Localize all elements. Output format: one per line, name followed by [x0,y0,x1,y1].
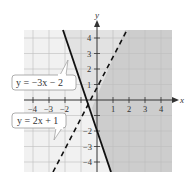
x-tick-label: −3 [44,104,53,114]
x-tick-label: −4 [28,104,38,114]
x-tick-label: 3 [143,104,147,114]
y-tick-label: −4 [83,157,93,167]
y-axis-label: y [94,10,99,20]
y-tick-label: 1 [87,80,91,90]
y-tick-label: 2 [87,64,91,74]
x-tick-label: 2 [127,104,131,114]
y-tick-label: −2 [83,126,92,136]
y-tick-label: −3 [83,142,92,152]
y-axis-arrow-icon [94,20,100,27]
eq1-label: y = −3x − 2 [16,77,63,88]
x-axis-label: x [179,95,184,105]
inequality-graph: y x −4 −3 −2 1 2 3 4 4 3 2 1 −2 −3 −4 y … [0,0,186,172]
x-axis-arrow-icon [172,97,179,103]
y-tick-label: 3 [87,49,91,59]
x-tick-label: 1 [111,104,115,114]
eq2-label: y = 2x + 1 [17,115,58,126]
x-tick-label: −2 [60,104,69,114]
